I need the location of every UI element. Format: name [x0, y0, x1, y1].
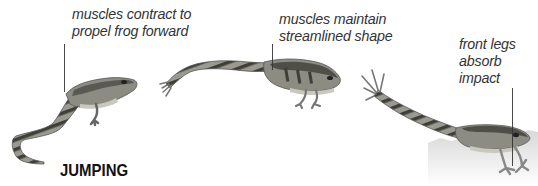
annotation-line: muscles maintain: [279, 10, 392, 27]
annotation-line: streamlined shape: [279, 27, 392, 44]
annotation-line: muscles contract to: [72, 5, 191, 22]
frog-jumping-diagram: muscles contract to propel frog forward …: [0, 0, 538, 186]
annotation-line: front legs: [459, 35, 516, 52]
annotation-line: propel frog forward: [72, 22, 191, 39]
frog-launch: [12, 78, 137, 164]
annotation-line: impact: [459, 69, 516, 86]
diagram-title: JUMPING: [60, 161, 128, 181]
annotation-contract: muscles contract to propel frog forward: [72, 5, 191, 39]
frog-midair: [160, 59, 340, 108]
annotation-streamlined: muscles maintain streamlined shape: [279, 10, 392, 44]
annotation-line: absorb: [459, 52, 516, 69]
annotation-absorb: front legs absorb impact: [459, 35, 516, 86]
